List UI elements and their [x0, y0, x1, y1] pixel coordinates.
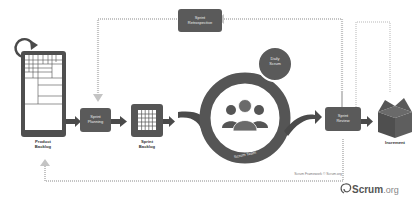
- sprint-review-box: Sprint Review: [325, 107, 361, 131]
- product-backlog-label: Product Backlog: [16, 140, 70, 150]
- brand-name: Scrum: [352, 184, 383, 195]
- increment-box-icon: [378, 98, 412, 138]
- sprint-planning-line2: Planning: [88, 120, 104, 125]
- sprint-planning-box: Sprint Planning: [80, 108, 111, 132]
- sprint-retrospective-line2: Retrospective: [188, 21, 212, 26]
- sprint-review-line2: Review: [336, 119, 349, 124]
- scrum-org-logo: Scrum.org: [352, 184, 399, 195]
- scrum-logo-icon: [341, 184, 351, 193]
- sprint-retrospective-box: Sprint Retrospective: [178, 9, 222, 32]
- backlog-arrowhead-up: [40, 159, 50, 166]
- daily-scrum-label: Daily Scrum: [260, 57, 290, 67]
- copyright-text: Scrum Framework © Scrum.org: [280, 172, 342, 176]
- retro-arrowhead-down: [93, 94, 103, 102]
- team-people-icon: [222, 100, 268, 132]
- brand-suffix: .org: [383, 185, 399, 195]
- sprint-backlog-label: Sprint Backlog: [125, 140, 169, 150]
- increment-label: Increment: [374, 141, 416, 146]
